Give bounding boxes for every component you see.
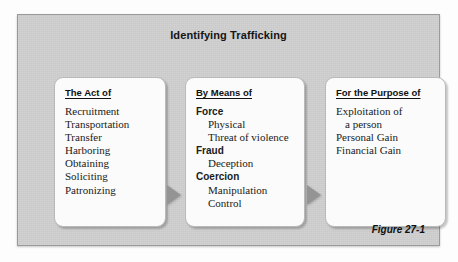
list-item: Physical: [196, 118, 304, 131]
list-item: Personal Gain: [336, 131, 445, 144]
box-for-the-purpose-of: For the Purpose of Exploitation of a per…: [325, 77, 446, 227]
box-the-act-of-heading: The Act of: [65, 87, 165, 98]
list-item: a person: [336, 118, 445, 131]
figure-caption: Figure 27-1: [372, 224, 425, 235]
arrow-right-icon: [307, 185, 321, 205]
box-for-the-purpose-of-heading: For the Purpose of: [336, 87, 445, 98]
list-item: Soliciting: [65, 170, 165, 183]
box-by-means-of-content: By Means of Force Physical Threat of vio…: [186, 78, 304, 210]
figure-panel: Identifying Trafficking The Act of Recru…: [17, 14, 440, 246]
box-for-the-purpose-of-content: For the Purpose of Exploitation of a per…: [326, 78, 445, 157]
box-the-act-of: The Act of Recruitment Transportation Tr…: [54, 77, 166, 227]
list-item-category: Fraud: [196, 144, 304, 157]
box-by-means-of: By Means of Force Physical Threat of vio…: [185, 77, 305, 227]
list-item: Patronizing: [65, 184, 165, 197]
list-item: Deception: [196, 157, 304, 170]
box-by-means-of-heading: By Means of: [196, 87, 304, 98]
box-the-act-of-content: The Act of Recruitment Transportation Tr…: [55, 78, 165, 197]
list-item: Manipulation: [196, 184, 304, 197]
figure-title: Identifying Trafficking: [18, 29, 439, 41]
list-item: Transfer: [65, 131, 165, 144]
list-item: Recruitment: [65, 105, 165, 118]
list-item: Harboring: [65, 144, 165, 157]
list-item: Financial Gain: [336, 144, 445, 157]
list-item-category: Force: [196, 105, 304, 118]
list-item: Threat of violence: [196, 131, 304, 144]
list-item: Control: [196, 197, 304, 210]
list-item: Exploitation of: [336, 105, 445, 118]
list-item: Transportation: [65, 118, 165, 131]
list-item: Obtaining: [65, 157, 165, 170]
list-item-category: Coercion: [196, 170, 304, 183]
arrow-right-icon: [167, 185, 181, 205]
figure-identifying-trafficking: Identifying Trafficking The Act of Recru…: [0, 0, 458, 262]
